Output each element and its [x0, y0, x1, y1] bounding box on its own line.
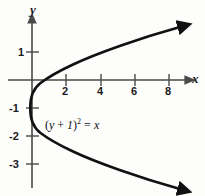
parabola-curve-upper [30, 27, 180, 108]
equation-var-x: x [94, 118, 99, 132]
y-axis-label: y [30, 3, 36, 16]
plot-canvas [0, 0, 205, 196]
equation-equals: = [81, 118, 94, 132]
parabola-figure: 2 4 6 8 1 -1 -2 -3 y x (y + 1)2 = x [0, 0, 205, 196]
y-tick-label-neg3: -3 [9, 159, 19, 170]
x-tick-label-8: 8 [165, 86, 171, 97]
x-axis-label: x [192, 72, 199, 85]
equation-annotation: (y + 1)2 = x [45, 118, 99, 131]
y-tick-label-neg2: -2 [9, 131, 19, 142]
x-tick-label-2: 2 [62, 86, 68, 97]
y-tick-label-neg1: -1 [9, 103, 19, 114]
x-tick-label-4: 4 [97, 86, 103, 97]
equation-plus: + [54, 118, 67, 132]
y-tick-label-1: 1 [18, 47, 24, 58]
x-tick-label-6: 6 [131, 86, 137, 97]
